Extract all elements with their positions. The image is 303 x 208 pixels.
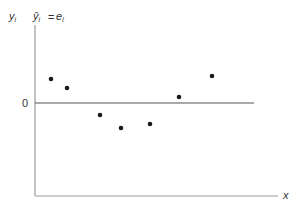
data-point [49,77,54,82]
y-axis-label-y: yi [8,10,17,23]
residual-plot: yi ŷi = ei 0 x [0,0,303,208]
data-point [65,86,70,91]
x-axis-label: x [282,189,289,201]
data-point [98,113,103,118]
data-point [210,74,215,79]
data-point [177,95,182,100]
data-point [119,126,124,131]
y-axis-label-yhat: ŷi [32,10,41,23]
data-point [148,122,153,127]
y-axis-label-eq: = [48,11,54,23]
y-axis-label-e: ei [56,10,64,23]
data-points [49,74,215,131]
zero-tick-label: 0 [22,97,28,109]
